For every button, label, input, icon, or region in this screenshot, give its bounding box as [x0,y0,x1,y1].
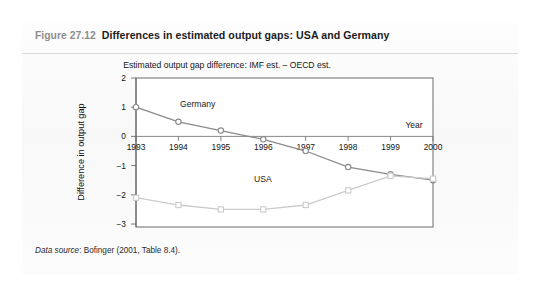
source-note: Data source: Bofinger (2001, Table 8.4). [35,246,180,255]
figure-panel: Figure 27.12Differences in estimated out… [22,22,518,274]
data-point-marker [218,128,223,133]
x-tick-label: 2000 [424,142,443,152]
x-tick-label: 1993 [127,142,146,152]
data-point-marker [430,176,435,181]
data-point-marker [261,207,266,212]
data-point-marker [388,173,393,178]
y-tick-label: 0 [121,131,126,141]
data-point-marker [346,188,351,193]
x-axis-title: Year [406,120,423,130]
y-tick-label: −2 [116,190,126,200]
data-point-marker [176,202,181,207]
series-label-germany: Germany [180,99,216,109]
figure-caption-bar: Figure 27.12Differences in estimated out… [22,22,518,53]
data-point-marker [176,119,181,124]
data-point-marker [133,195,138,200]
data-point-marker [303,202,308,207]
data-point-marker [261,137,266,142]
x-tick-label: 1998 [339,142,358,152]
x-tick-label: 1995 [212,142,231,152]
series-label-usa: USA [254,174,272,184]
y-axis-title: Difference in output gap [76,103,86,200]
y-tick-label: −3 [116,219,126,229]
figure-caption-text: Differences in estimated output gaps: US… [102,29,390,41]
x-tick-label: 1996 [254,142,273,152]
chart-container: Estimated output gap difference: IMF est… [22,54,518,242]
x-tick-label: 1999 [381,142,400,152]
y-tick-label: 2 [121,73,126,83]
data-point-marker [133,105,138,110]
data-point-marker [218,207,223,212]
figure-number: Figure 27.12 [35,30,96,41]
source-text: : Bofinger (2001, Table 8.4). [79,246,180,255]
data-point-marker [303,148,308,153]
figure-caption: Figure 27.12Differences in estimated out… [35,29,389,41]
line-chart: 2 1 0 −1 −2 −3 Difference in output gap … [22,54,518,242]
data-point-marker [345,164,350,169]
y-tick-label: 1 [121,102,126,112]
y-tick-label: −1 [116,161,126,171]
x-tick-label: 1994 [169,142,188,152]
source-label: Data source [35,246,79,255]
